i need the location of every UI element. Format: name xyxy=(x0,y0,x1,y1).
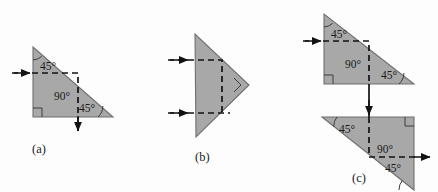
panel-label-b: (b) xyxy=(195,150,210,164)
angle-label-c-upper-1: 90° xyxy=(345,58,362,70)
angle-label-c-lower-2: 45° xyxy=(385,162,402,174)
panel-b: (b) xyxy=(168,34,249,164)
panel-label-a: (a) xyxy=(32,142,46,156)
angle-label-a-0: 45° xyxy=(40,60,57,72)
angle-arc-c-lower-bottom xyxy=(399,180,402,190)
angle-label-a-2: 45° xyxy=(79,102,96,114)
prism-c-lower xyxy=(322,117,414,190)
optics-prism-figure: 45° 90° 45° (a) (b) xyxy=(0,0,438,192)
prism-a-right-isosceles xyxy=(33,47,113,117)
angle-label-c-lower-0: 45° xyxy=(339,123,356,135)
angle-label-c-upper-0: 45° xyxy=(331,28,348,40)
panel-c: 45° 90° 45° 45° 90° 45° (c) xyxy=(303,14,430,190)
angle-label-a-1: 90° xyxy=(54,90,71,102)
diagram-canvas: 45° 90° 45° (a) (b) xyxy=(0,0,438,192)
angle-label-c-upper-2: 45° xyxy=(381,69,398,81)
panel-label-c: (c) xyxy=(352,171,366,185)
angle-label-c-lower-1: 90° xyxy=(377,143,394,155)
panel-a: 45° 90° 45° (a) xyxy=(12,47,113,156)
